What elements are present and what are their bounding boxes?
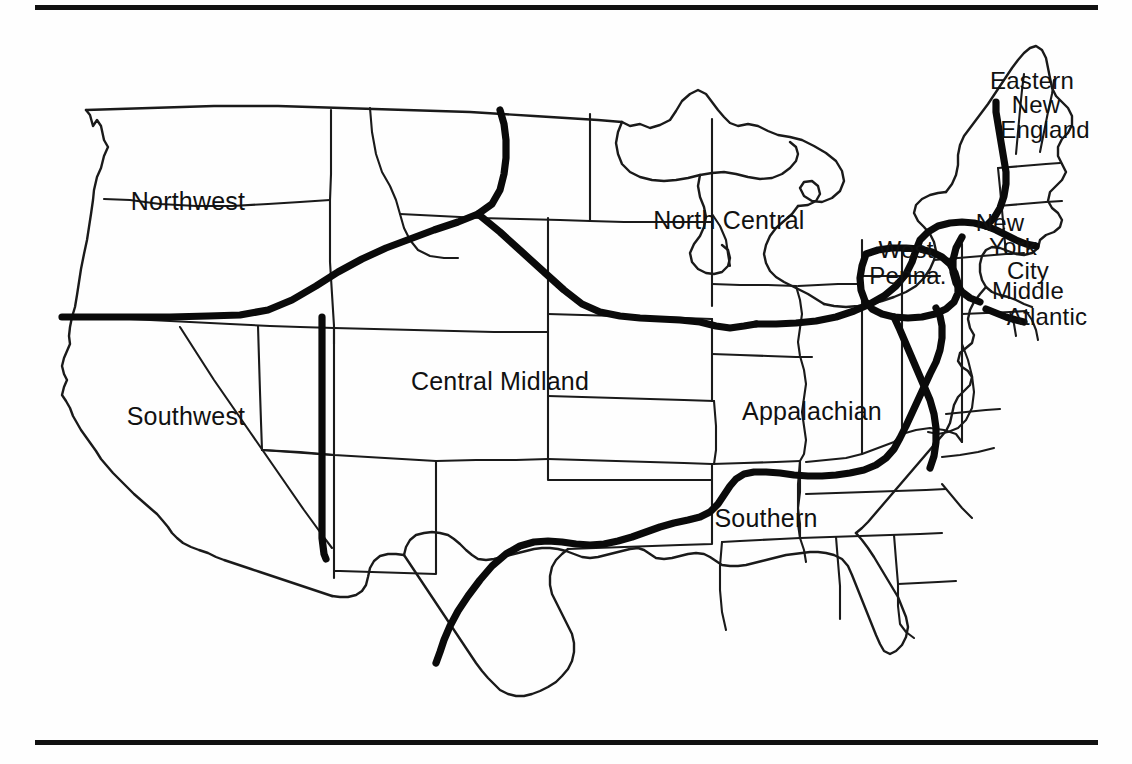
label-west-penna-line2: Penna. — [869, 262, 946, 289]
figure-root: Northwest Southwest Central Midland Nort… — [0, 0, 1132, 764]
us-dialect-map: Northwest Southwest Central Midland Nort… — [0, 14, 1132, 730]
label-southwest: Southwest — [127, 402, 246, 430]
label-north-central: North Central — [653, 206, 804, 234]
label-middle-atlantic-line1: Middle — [992, 277, 1064, 304]
southwest-texas-boundary — [322, 317, 326, 559]
label-eastern-new-england-line2: New — [1012, 91, 1061, 118]
appalachian-west-boundary — [894, 317, 936, 468]
northern-midland-boundary — [62, 110, 506, 317]
label-middle-atlantic-line2: Atlantic — [1007, 303, 1087, 330]
label-central-midland: Central Midland — [411, 367, 589, 395]
label-new-york-city-line2: York — [989, 233, 1038, 260]
label-northwest: Northwest — [131, 187, 245, 215]
label-west-penna-line1: West — [878, 236, 933, 263]
bottom-rule — [35, 740, 1098, 745]
top-rule — [35, 5, 1098, 10]
label-southern: Southern — [714, 504, 817, 532]
label-new-york-city-line1: New — [976, 209, 1025, 236]
label-eastern-new-england-line1: Eastern — [990, 67, 1074, 94]
label-appalachian: Appalachian — [742, 397, 882, 425]
label-eastern-new-england-line3: England — [1000, 116, 1089, 143]
